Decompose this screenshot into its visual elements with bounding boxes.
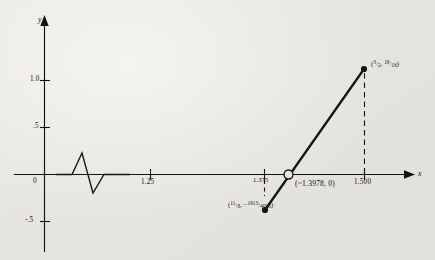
y-tick-label-0.5: .5 bbox=[33, 123, 39, 130]
x-tick-label-1.25: 1.25 bbox=[141, 179, 154, 186]
lower-x-fraction: 11/8 bbox=[230, 203, 240, 208]
annotation-upper-point: (3/2, 19/16) bbox=[371, 61, 399, 68]
plot-vector-layer bbox=[0, 0, 435, 260]
upper-x-fraction: 3/2 bbox=[373, 62, 380, 67]
figure-plot-area: y x 1.0 .5 0 -.5 1.25 1.375 1.500 (~1.39… bbox=[0, 0, 435, 260]
annotation-root: (~1.3978, 0) bbox=[295, 180, 335, 188]
lower-close-paren: ) bbox=[271, 201, 273, 208]
point-upper-3-2 bbox=[361, 66, 367, 72]
lower-y-fraction: 1913/4096 bbox=[247, 203, 270, 208]
annotation-lower-point: (11/8, −1913/4096) bbox=[228, 202, 273, 209]
curve-main-segment bbox=[265, 69, 364, 210]
x-axis-label: x bbox=[418, 170, 422, 178]
x-tick-label-1.500: 1.500 bbox=[354, 179, 371, 186]
point-root-open-circle bbox=[284, 170, 293, 179]
curve-zigzag-break bbox=[56, 153, 130, 193]
y-tick-label-minus-0.5: -.5 bbox=[25, 217, 33, 224]
x-axis-arrowhead bbox=[404, 170, 415, 178]
x-tick-label-1.375: 1.375 bbox=[253, 177, 268, 184]
y-axis-label: y bbox=[38, 16, 42, 24]
upper-close-paren: ) bbox=[397, 60, 399, 67]
origin-label: 0 bbox=[33, 178, 37, 185]
upper-y-fraction: 19/16 bbox=[384, 62, 397, 67]
y-tick-label-1.0: 1.0 bbox=[30, 76, 40, 83]
